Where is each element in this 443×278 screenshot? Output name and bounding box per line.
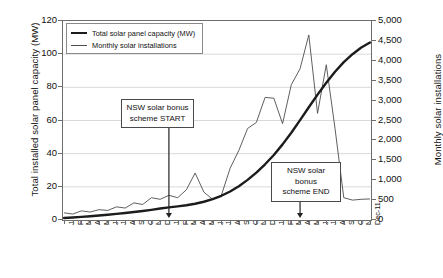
x-tick-mark	[125, 221, 126, 224]
x-tick-mark	[143, 221, 144, 224]
x-tick-mark	[160, 221, 161, 224]
x-tick-mark	[213, 221, 214, 224]
x-tick-mark	[361, 221, 362, 224]
y-tick-mark-right	[372, 40, 376, 41]
x-tick-mark	[116, 221, 117, 224]
y-tick-mark-right	[372, 20, 376, 21]
y-tick-mark-right	[372, 179, 376, 180]
y-tick-right: 3,000	[378, 94, 418, 105]
y-tick-left: 100	[23, 47, 57, 58]
x-tick-mark	[64, 221, 65, 224]
y-tick-left: 40	[23, 147, 57, 158]
x-tick-mark	[134, 221, 135, 224]
y-axis-right-title: Monthly solar installations	[432, 10, 443, 210]
y-tick-right: 4,000	[378, 54, 418, 65]
x-tick-mark	[178, 221, 179, 224]
y-tick-right: 0	[378, 213, 418, 224]
annotation-start-line1: NSW solar bonus	[126, 103, 189, 114]
y-tick-mark-right	[372, 100, 376, 101]
legend-item-capacity: Total solar panel capacity (MW)	[71, 27, 198, 39]
x-tick-mark	[318, 221, 319, 224]
legend-line-thick-icon	[71, 32, 87, 34]
x-tick-mark	[326, 221, 327, 224]
x-tick-mark	[291, 221, 292, 224]
x-tick-mark	[300, 221, 301, 224]
x-tick-mark	[221, 221, 222, 224]
x-tick-mark	[256, 221, 257, 224]
annotation-scheme-end: NSW solar bonus scheme END	[271, 162, 341, 202]
x-tick-mark	[283, 221, 284, 224]
x-tick-mark	[73, 221, 74, 224]
x-tick-mark	[204, 221, 205, 224]
x-tick-mark	[274, 221, 275, 224]
x-tick-mark	[265, 221, 266, 224]
legend-line-thin-icon	[71, 45, 87, 46]
x-tick: Dec-11	[373, 202, 382, 225]
y-tick-left: 60	[23, 114, 57, 125]
x-tick-mark	[195, 221, 196, 224]
x-tick-mark	[353, 221, 354, 224]
annotation-scheme-start: NSW solar bonus scheme START	[121, 99, 194, 128]
y-tick-mark-right	[372, 120, 376, 121]
x-tick-mark	[108, 221, 109, 224]
x-tick-mark	[248, 221, 249, 224]
y-tick-right: 2,500	[378, 114, 418, 125]
y-tick-right: 1,500	[378, 153, 418, 164]
y-tick-right: 3,500	[378, 74, 418, 85]
y-tick-right: 1,000	[378, 173, 418, 184]
y-tick-right: 2,000	[378, 133, 418, 144]
y-tick-right: 4,500	[378, 34, 418, 45]
x-tick-mark	[81, 221, 82, 224]
x-tick-mark	[335, 221, 336, 224]
y-tick-right: 500	[378, 193, 418, 204]
y-tick-left: 0	[23, 213, 57, 224]
y-tick-mark-right	[372, 80, 376, 81]
y-tick-left: 20	[23, 180, 57, 191]
y-tick-left: 80	[23, 80, 57, 91]
y-tick-right: 5,000	[378, 14, 418, 25]
annotation-end-line1: NSW solar bonus	[276, 166, 336, 187]
x-tick-mark	[186, 221, 187, 224]
legend-label-installations: Monthly solar installations	[92, 41, 177, 50]
chart-legend: Total solar panel capacity (MW) Monthly …	[66, 23, 203, 54]
y-tick-mark-right	[372, 199, 376, 200]
y-tick-left: 120	[23, 14, 57, 25]
x-tick-mark	[151, 221, 152, 224]
legend-item-installations: Monthly solar installations	[71, 39, 198, 51]
x-tick-mark	[230, 221, 231, 224]
y-tick-mark-right	[372, 139, 376, 140]
x-tick-mark	[370, 221, 371, 224]
x-tick-mark	[90, 221, 91, 224]
annotation-end-line2: scheme END	[276, 187, 336, 198]
annotation-start-line2: scheme START	[126, 114, 189, 125]
x-tick-mark	[309, 221, 310, 224]
y-tick-mark-right	[372, 60, 376, 61]
x-tick-mark	[239, 221, 240, 224]
legend-label-capacity: Total solar panel capacity (MW)	[92, 29, 195, 38]
x-tick-mark	[99, 221, 100, 224]
y-tick-mark-right	[372, 159, 376, 160]
x-tick-mark	[169, 221, 170, 224]
x-tick-mark	[344, 221, 345, 224]
